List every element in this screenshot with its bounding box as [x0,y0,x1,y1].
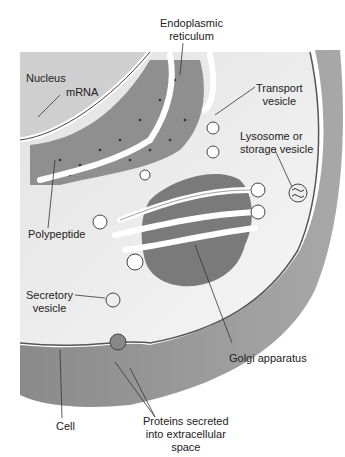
label-lysosome-line2: storage vesicle [240,143,313,156]
label-proteins: Proteins secreted into extracellular spa… [143,415,229,454]
label-er-line2: reticulum [160,30,223,43]
label-mrna: mRNA [66,86,98,99]
secretory-vesicle [106,293,120,307]
label-proteins-line3: space [143,441,229,454]
label-golgi: Golgi apparatus [229,352,307,365]
label-polypeptide: Polypeptide [28,228,86,241]
label-secretory-vesicle: Secretory vesicle [26,289,73,315]
label-transport-line1: Transport [256,82,303,95]
label-cell: Cell [56,420,75,433]
label-proteins-line1: Proteins secreted [143,415,229,428]
transport-vesicle [207,122,219,134]
label-proteins-line2: into extracellular [143,428,229,441]
label-er-line1: Endoplasmic [160,17,223,30]
label-nucleus: Nucleus [26,72,66,85]
label-transport-vesicle: Transport vesicle [256,82,303,108]
label-lysosome: Lysosome or storage vesicle [240,130,313,156]
label-transport-line2: vesicle [256,95,303,108]
label-er: Endoplasmic reticulum [160,17,223,43]
label-secretory-line2: vesicle [26,302,73,315]
label-lysosome-line1: Lysosome or [240,130,313,143]
label-secretory-line1: Secretory [26,289,73,302]
